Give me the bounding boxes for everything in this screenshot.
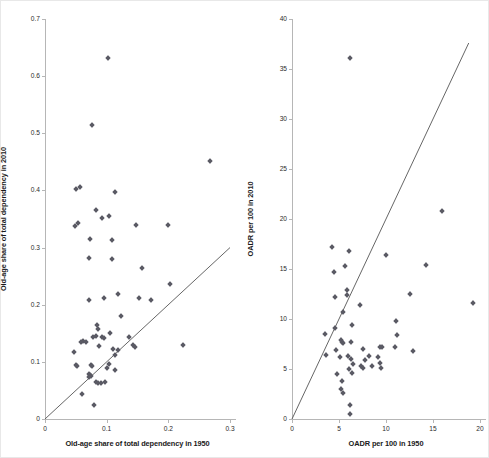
data-point: [330, 244, 336, 250]
y-tick-label: 0.3: [11, 244, 40, 251]
data-point: [132, 344, 138, 350]
data-point: [112, 189, 118, 195]
y-tick-label: 35: [258, 65, 287, 72]
y-tick: [42, 19, 45, 20]
x-tick-label: 5: [325, 425, 353, 432]
data-point: [105, 55, 111, 61]
data-point: [347, 402, 353, 408]
figure-panels: Old-age share of total dependency in 201…: [0, 0, 489, 458]
data-point: [119, 313, 125, 319]
data-point: [90, 122, 96, 128]
x-tick-label: 0: [278, 425, 306, 432]
data-point: [107, 330, 113, 336]
data-point: [165, 222, 171, 228]
data-point: [349, 370, 355, 376]
data-point: [109, 256, 115, 262]
data-point: [136, 295, 142, 301]
data-point: [109, 237, 115, 243]
x-axis-title-left: Old-age share of total dependency in 195…: [25, 439, 250, 448]
y-tick-label: 0: [258, 415, 287, 422]
y-tick-label: 0.6: [11, 72, 40, 79]
y-tick: [42, 76, 45, 77]
x-tick: [168, 420, 169, 423]
data-point: [424, 262, 430, 268]
x-tick: [339, 420, 340, 423]
data-point: [361, 365, 367, 371]
x-tick-label: 0.2: [154, 425, 182, 432]
x-tick: [292, 420, 293, 423]
data-point: [74, 364, 80, 370]
y-tick: [42, 305, 45, 306]
data-point: [91, 402, 97, 408]
x-tick: [480, 420, 481, 423]
chart-panel-right: OADR per 100 in 2010 0510152025303540051…: [244, 0, 489, 458]
plot-area-right: 051015202530354005101520: [244, 0, 489, 458]
data-point: [106, 213, 112, 219]
data-point: [79, 391, 85, 397]
data-point: [93, 208, 99, 214]
y-axis-line: [292, 19, 293, 419]
data-point: [394, 332, 400, 338]
y-tick-label: 5: [258, 365, 287, 372]
data-point: [366, 353, 372, 359]
y-tick: [42, 248, 45, 249]
data-point: [115, 292, 121, 298]
y-tick: [42, 133, 45, 134]
data-point: [440, 208, 446, 214]
data-point: [378, 365, 384, 371]
reference-line: [0, 0, 245, 458]
data-point: [95, 326, 101, 332]
x-axis-line: [292, 419, 486, 420]
data-point: [348, 339, 354, 345]
data-point: [112, 352, 118, 358]
data-point: [71, 349, 77, 355]
data-point: [349, 322, 355, 328]
data-point: [148, 297, 154, 303]
data-point: [334, 371, 340, 377]
data-point: [103, 380, 109, 386]
data-point: [346, 248, 352, 254]
x-tick-label: 0.3: [216, 425, 244, 432]
y-tick: [289, 19, 292, 20]
data-point: [99, 215, 105, 221]
data-point: [87, 297, 93, 303]
data-point: [345, 292, 351, 298]
data-point: [89, 364, 95, 370]
y-tick-label: 0.1: [11, 358, 40, 365]
data-point: [332, 294, 338, 300]
x-tick: [107, 420, 108, 423]
y-tick-label: 10: [258, 315, 287, 322]
y-tick-label: 0: [11, 415, 40, 422]
y-tick-label: 20: [258, 215, 287, 222]
y-tick: [289, 119, 292, 120]
data-point: [133, 222, 139, 228]
data-point: [342, 263, 348, 269]
data-point: [471, 300, 477, 306]
data-point: [376, 354, 382, 360]
y-tick-label: 0.5: [11, 129, 40, 136]
y-tick-label: 0.7: [11, 15, 40, 22]
data-point: [339, 378, 345, 384]
x-tick: [433, 420, 434, 423]
data-point: [379, 344, 385, 350]
data-point: [101, 296, 107, 302]
data-point: [410, 348, 416, 354]
data-point: [340, 340, 346, 346]
data-point: [207, 158, 213, 164]
data-point: [383, 252, 389, 258]
data-point: [115, 347, 121, 353]
y-tick: [289, 369, 292, 370]
data-point: [407, 291, 413, 297]
data-point: [332, 325, 338, 331]
data-point: [96, 343, 102, 349]
y-tick: [42, 190, 45, 191]
x-tick-label: 10: [372, 425, 400, 432]
y-tick: [42, 362, 45, 363]
data-point: [350, 361, 356, 367]
data-point: [357, 302, 363, 308]
data-point: [87, 236, 93, 242]
x-tick: [386, 420, 387, 423]
y-tick-label: 25: [258, 165, 287, 172]
y-tick: [289, 219, 292, 220]
data-point: [360, 346, 366, 352]
